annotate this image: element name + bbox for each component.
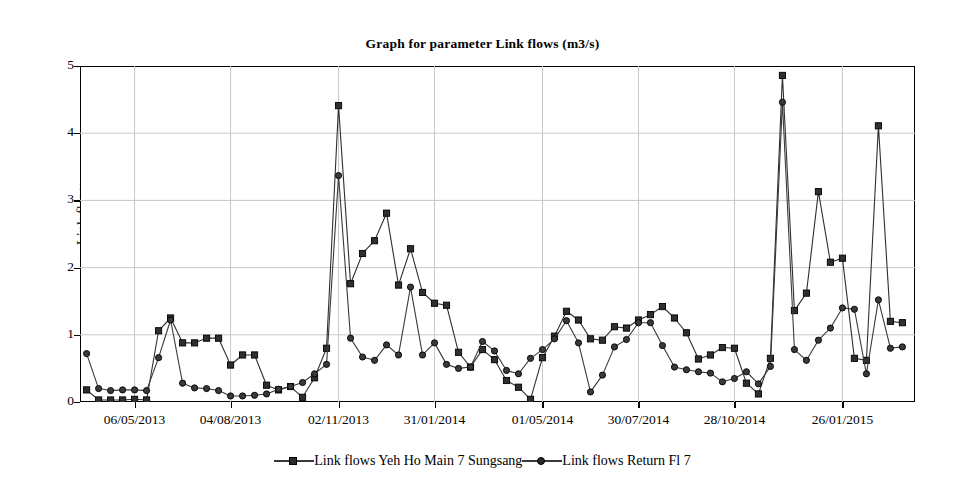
data-point-marker-square — [491, 357, 497, 363]
data-point-marker-circle — [107, 387, 113, 393]
data-point-marker-circle — [359, 354, 365, 360]
data-point-marker-circle — [96, 385, 102, 391]
data-point-marker-circle — [167, 317, 173, 323]
data-point-marker-circle — [287, 383, 293, 389]
data-point-marker-square — [815, 189, 821, 195]
data-point-marker-square — [119, 397, 125, 402]
x-tick-label: 26/01/2015 — [812, 412, 874, 428]
data-point-marker-circle — [647, 320, 653, 326]
x-tick-label: 02/11/2013 — [308, 412, 369, 428]
x-tick-label: 30/07/2014 — [608, 412, 670, 428]
data-point-marker-square — [839, 255, 845, 261]
data-point-marker-circle — [215, 387, 221, 393]
data-point-marker-square — [155, 328, 161, 334]
x-tick-label: 28/10/2014 — [704, 412, 766, 428]
chart-title: Graph for parameter Link flows (m3/s) — [0, 36, 965, 52]
data-point-marker-circle — [263, 391, 269, 397]
data-point-marker-circle — [323, 361, 329, 367]
data-point-marker-square — [335, 103, 341, 109]
x-tick-label: 31/01/2014 — [404, 412, 466, 428]
data-point-marker-square — [371, 238, 377, 244]
data-point-marker-square — [215, 335, 221, 341]
data-point-marker-square — [851, 355, 857, 361]
data-point-marker-circle — [755, 381, 761, 387]
data-point-marker-circle — [695, 369, 701, 375]
data-point-marker-square — [263, 382, 269, 388]
data-point-marker-circle — [119, 387, 125, 393]
legend-item-series-2: Link flows Return Fl 7 — [522, 452, 690, 469]
data-point-marker-circle — [875, 297, 881, 303]
y-tick-mark — [74, 335, 80, 336]
data-point-marker-circle — [431, 340, 437, 346]
data-point-marker-square — [887, 318, 893, 324]
data-point-marker-square — [875, 123, 881, 129]
data-point-marker-circle — [827, 325, 833, 331]
data-point-marker-circle — [84, 351, 90, 357]
data-point-marker-square — [419, 289, 425, 295]
data-point-marker-square — [359, 250, 365, 256]
data-point-marker-circle — [599, 372, 605, 378]
y-tick-mark — [74, 133, 80, 134]
legend-label-series-1: Link flows Yeh Ho Main 7 Sungsang — [314, 453, 522, 469]
data-point-marker-circle — [719, 379, 725, 385]
data-point-marker-circle — [143, 387, 149, 393]
data-point-marker-square — [719, 344, 725, 350]
data-point-marker-circle — [803, 357, 809, 363]
data-point-marker-circle — [203, 385, 209, 391]
data-point-marker-square — [731, 345, 737, 351]
y-tick-mark — [74, 268, 80, 269]
data-point-marker-square — [299, 394, 305, 400]
data-point-marker-square — [143, 397, 149, 402]
data-point-marker-circle — [239, 393, 245, 399]
data-point-marker-square — [743, 380, 749, 386]
data-point-marker-circle — [515, 371, 521, 377]
data-point-marker-square — [659, 303, 665, 309]
data-point-marker-square — [503, 377, 509, 383]
data-point-marker-circle — [191, 385, 197, 391]
y-tick-label: 2 — [52, 260, 74, 274]
data-point-marker-circle — [251, 392, 257, 398]
data-point-marker-square — [695, 356, 701, 362]
data-point-marker-circle — [275, 386, 281, 392]
y-axis-tick-labels: 012345 — [50, 66, 74, 402]
y-tick-label: 3 — [52, 192, 74, 206]
data-point-marker-square — [395, 282, 401, 288]
data-point-marker-circle — [839, 305, 845, 311]
data-point-marker-circle — [551, 336, 557, 342]
data-point-marker-square — [779, 72, 785, 78]
data-point-marker-circle — [575, 340, 581, 346]
x-tick-mark — [842, 402, 843, 408]
y-tick-label: 4 — [52, 125, 74, 139]
data-point-marker-square — [515, 384, 521, 390]
data-point-marker-square — [527, 396, 533, 402]
data-point-marker-circle — [659, 342, 665, 348]
data-point-marker-square — [575, 317, 581, 323]
data-point-marker-circle — [155, 355, 161, 361]
data-point-marker-square — [203, 335, 209, 341]
data-point-marker-square — [803, 290, 809, 296]
x-tick-label: 06/05/2013 — [104, 412, 166, 428]
data-point-marker-circle — [815, 337, 821, 343]
data-point-marker-circle — [563, 318, 569, 324]
data-point-marker-circle — [395, 352, 401, 358]
data-point-marker-square — [623, 325, 629, 331]
data-point-marker-circle — [179, 380, 185, 386]
data-point-marker-circle — [527, 355, 533, 361]
data-point-marker-square — [587, 336, 593, 342]
chart-page: Graph for parameter Link flows (m3/s) Li… — [0, 0, 965, 479]
plot-area — [80, 66, 915, 402]
data-point-marker-circle — [779, 99, 785, 105]
legend-label-series-2: Link flows Return Fl 7 — [562, 453, 690, 469]
data-point-marker-circle — [671, 364, 677, 370]
data-point-marker-circle — [227, 393, 233, 399]
x-tick-mark — [435, 402, 436, 408]
data-point-marker-square — [707, 352, 713, 358]
data-point-marker-circle — [467, 364, 473, 370]
data-point-marker-circle — [371, 357, 377, 363]
data-point-marker-circle — [743, 369, 749, 375]
data-point-marker-square — [431, 300, 437, 306]
x-tick-label: 01/05/2014 — [512, 412, 574, 428]
data-point-marker-square — [683, 330, 689, 336]
data-point-marker-circle — [491, 348, 497, 354]
data-point-marker-circle — [539, 346, 545, 352]
